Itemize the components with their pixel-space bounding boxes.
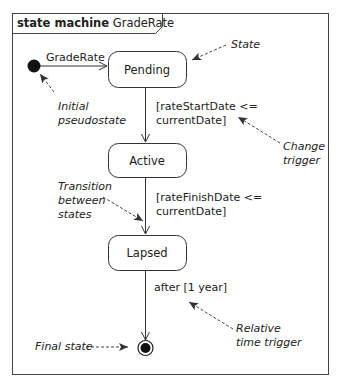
annotation-arrow-relative <box>189 302 233 329</box>
guard-finish-line2: currentDate] <box>156 205 226 219</box>
frame-name: GradeRate <box>113 16 174 30</box>
annotation-change-line2: trigger <box>283 154 320 168</box>
annotation-transition-line1: Transition <box>58 180 112 194</box>
annotation-arrow-state <box>192 45 226 60</box>
frame-title: state machine GradeRate <box>17 16 174 30</box>
annotation-change-line1: Change <box>283 140 325 154</box>
annotation-initial-line2: pseudostate <box>58 114 126 128</box>
frame-keyword: state machine <box>17 16 109 30</box>
annotation-arrow-change <box>238 117 280 143</box>
annotation-final: Final state <box>35 340 93 354</box>
initial-pseudostate <box>28 60 41 73</box>
guard-start-line2: currentDate] <box>156 114 226 128</box>
annotation-state: State <box>231 38 260 52</box>
annotation-arrow-transition <box>103 197 143 221</box>
annotation-transition-line2: between <box>58 194 106 208</box>
guard-start-line1: [rateStartDate <= <box>156 100 258 114</box>
final-state-dot <box>141 343 151 353</box>
annotation-relative-line1: Relative <box>236 322 281 336</box>
state-lapsed-label: Lapsed <box>108 246 186 260</box>
state-active-label: Active <box>108 154 186 168</box>
annotation-transition-line3: states <box>58 208 92 222</box>
state-pending-label: Pending <box>108 63 186 77</box>
annotation-initial-line1: Initial <box>58 100 88 114</box>
initial-transition-label: GradeRate <box>46 51 105 65</box>
annotation-relative-line2: time trigger <box>236 336 302 350</box>
time-trigger-label: after [1 year] <box>154 281 227 295</box>
guard-finish-line1: [rateFinishDate <= <box>156 191 262 205</box>
annotation-arrow-initial <box>40 74 54 92</box>
